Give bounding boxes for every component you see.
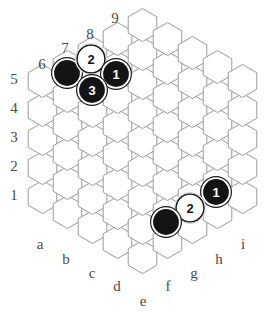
hex-cell[interactable] — [128, 125, 157, 158]
row-label-3: 3 — [10, 129, 18, 145]
hex-cell[interactable] — [103, 168, 132, 201]
hex-cell[interactable] — [153, 23, 182, 56]
row-label-2: 2 — [10, 158, 18, 174]
hex-cell[interactable] — [28, 181, 57, 214]
stone-move-number: 2 — [87, 52, 94, 67]
hex-cell[interactable] — [153, 168, 182, 201]
hex-cell[interactable] — [203, 138, 232, 171]
hex-cell[interactable] — [228, 65, 257, 98]
column-label-i: i — [241, 236, 245, 252]
row-label-7: 7 — [61, 40, 69, 56]
hex-cell[interactable] — [78, 182, 107, 215]
hex-cell[interactable] — [178, 95, 207, 128]
hex-cell[interactable] — [228, 181, 257, 214]
row-label-6: 6 — [38, 56, 46, 72]
row-label-9: 9 — [111, 10, 119, 26]
hex-cell[interactable] — [53, 109, 82, 142]
hex-cell[interactable] — [103, 226, 132, 259]
hex-cell[interactable] — [28, 123, 57, 156]
hex-cell[interactable] — [128, 9, 157, 42]
hex-cell[interactable] — [128, 67, 157, 100]
hex-cell[interactable] — [153, 81, 182, 114]
hex-cell[interactable] — [153, 52, 182, 85]
hex-board-canvas[interactable]: abcdefghi123456789 21312 — [0, 0, 269, 317]
hex-cell[interactable] — [228, 123, 257, 156]
hex-cell[interactable] — [128, 183, 157, 216]
hex-cell[interactable] — [178, 153, 207, 186]
row-label-1: 1 — [10, 187, 18, 203]
hex-cell[interactable] — [78, 124, 107, 157]
column-label-f: f — [166, 278, 171, 294]
hex-cell[interactable] — [178, 37, 207, 70]
stone-disc-black — [152, 208, 180, 236]
column-label-a: a — [37, 236, 44, 252]
hex-board-figure: abcdefghi123456789 21312 — [0, 0, 269, 317]
hex-cell[interactable] — [228, 94, 257, 127]
column-label-d: d — [113, 278, 121, 294]
column-label-e: e — [140, 293, 147, 309]
hex-cell[interactable] — [128, 241, 157, 274]
hex-cell[interactable] — [103, 110, 132, 143]
hex-cell[interactable] — [228, 152, 257, 185]
hex-cell[interactable] — [128, 96, 157, 129]
hex-cell[interactable] — [103, 139, 132, 172]
hex-cell[interactable] — [128, 38, 157, 71]
hex-cell[interactable] — [103, 23, 132, 56]
column-label-b: b — [62, 251, 70, 267]
hex-cell[interactable] — [203, 80, 232, 113]
hex-cell[interactable] — [53, 138, 82, 171]
stone-move-number: 1 — [112, 67, 119, 82]
stone-move-number: 2 — [186, 201, 193, 216]
hex-cell[interactable] — [78, 211, 107, 244]
hex-cell[interactable] — [153, 139, 182, 172]
hex-cell[interactable] — [128, 154, 157, 187]
hex-cell[interactable] — [78, 153, 107, 186]
hex-cell[interactable] — [203, 51, 232, 84]
stone-black-3-c6[interactable]: 3 — [76, 74, 107, 105]
row-label-4: 4 — [10, 100, 18, 116]
hex-cell[interactable] — [153, 110, 182, 143]
stone-black-f1[interactable] — [150, 206, 181, 237]
hex-cell[interactable] — [28, 152, 57, 185]
stone-move-number: 1 — [212, 185, 219, 200]
column-label-g: g — [190, 265, 198, 281]
hex-cell[interactable] — [103, 197, 132, 230]
stone-move-number: 3 — [88, 83, 95, 98]
column-label-c: c — [89, 265, 96, 281]
hex-cell[interactable] — [178, 66, 207, 99]
row-label-5: 5 — [10, 71, 18, 87]
hex-cell[interactable] — [53, 167, 82, 200]
hex-cell[interactable] — [28, 94, 57, 127]
row-label-8: 8 — [86, 26, 94, 42]
hex-cell[interactable] — [178, 124, 207, 157]
hex-cell[interactable] — [53, 196, 82, 229]
hex-cell[interactable] — [203, 109, 232, 142]
column-label-h: h — [215, 251, 223, 267]
